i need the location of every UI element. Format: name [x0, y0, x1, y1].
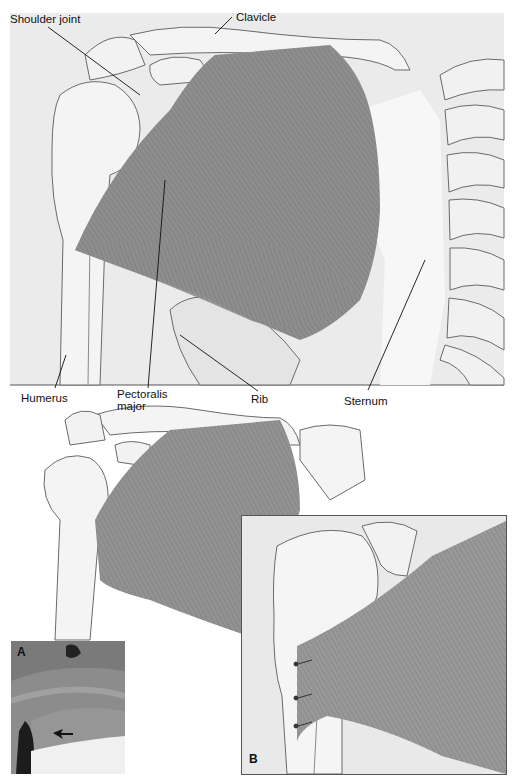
photo-shoulder-image: [11, 641, 125, 774]
panel-letter-b: B: [249, 752, 258, 766]
label-rib: Rib: [251, 393, 268, 405]
label-clavicle: Clavicle: [236, 11, 276, 23]
panel-letter-a: A: [17, 645, 26, 659]
label-humerus: Humerus: [21, 392, 68, 404]
label-pectoralis-major-line1: Pectoralis: [117, 388, 168, 400]
photo-panel-a: A: [11, 641, 125, 774]
inset-anatomy-illustration: [242, 516, 506, 774]
label-shoulder-joint: Shoulder joint: [10, 13, 80, 25]
inset-panel-b: B: [241, 515, 507, 775]
label-sternum: Sternum: [344, 395, 387, 407]
label-pectoralis-major-line2: major: [117, 400, 146, 412]
